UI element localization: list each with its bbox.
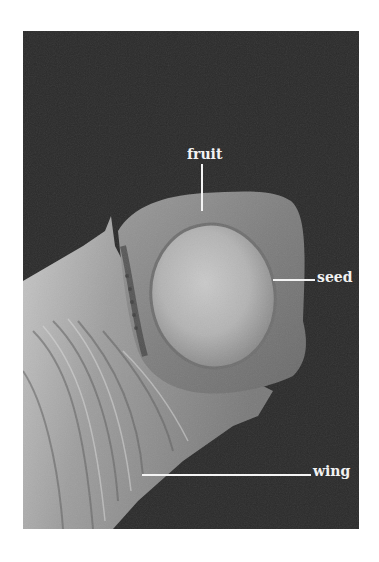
samara-photo: fruit seed wing xyxy=(23,31,359,529)
label-seed: seed xyxy=(317,269,353,285)
label-fruit: fruit xyxy=(187,146,222,162)
leader-line-seed xyxy=(273,279,315,281)
label-wing: wing xyxy=(313,463,350,479)
leader-line-fruit xyxy=(201,164,203,211)
leader-line-wing xyxy=(142,474,311,476)
